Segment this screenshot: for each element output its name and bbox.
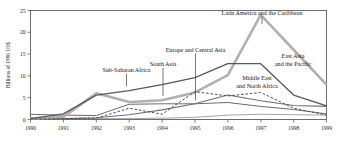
- x-tick-1995: 1995: [189, 125, 200, 131]
- label-middle-east-line2: and North Africa: [236, 83, 278, 89]
- x-tick-1992: 1992: [91, 125, 102, 131]
- label-europe-central-asia: Europe and Central Asia: [166, 47, 226, 53]
- x-tick-1997: 1997: [255, 125, 266, 131]
- y-axis-title: Billions of 1996 US$: [5, 42, 11, 88]
- label-east-asia-line1: East Asia: [282, 53, 305, 59]
- x-tick-1991: 1991: [58, 125, 69, 131]
- series-line-latin-america-and-the-caribbean: [31, 15, 327, 119]
- x-axis-ticks: [31, 120, 327, 123]
- label-east-asia-line2: and the Pacific: [275, 61, 312, 67]
- y-axis-ticks: [28, 11, 31, 120]
- x-tick-1996: 1996: [222, 125, 233, 131]
- x-tick-1990: 1990: [25, 125, 36, 131]
- label-sub-saharan-africa: Sub-Saharan Africa: [103, 67, 151, 73]
- label-middle-east-line1: Middle East: [242, 75, 272, 81]
- chart-container: 0 5 10 15 20 25 Billions of 1996 US$ 199…: [0, 0, 346, 151]
- label-latin-america: Latin America and the Caribbean: [222, 10, 303, 16]
- series-group: [31, 15, 327, 119]
- x-tick-1999: 1999: [321, 125, 332, 131]
- x-tick-1998: 1998: [288, 125, 299, 131]
- series-line-east-asia-and-the-pacific: [31, 64, 327, 119]
- x-tick-1993: 1993: [124, 125, 135, 131]
- x-tick-1994: 1994: [157, 125, 168, 131]
- line-chart: 0 5 10 15 20 25 Billions of 1996 US$ 199…: [0, 0, 346, 151]
- y-tick-20: 20: [20, 29, 26, 35]
- y-tick-5: 5: [23, 95, 26, 101]
- y-tick-25: 25: [20, 8, 26, 14]
- label-south-asia: South Asia: [150, 61, 177, 67]
- y-tick-0: 0: [23, 117, 26, 123]
- y-tick-15: 15: [20, 51, 26, 57]
- y-tick-10: 10: [20, 73, 26, 79]
